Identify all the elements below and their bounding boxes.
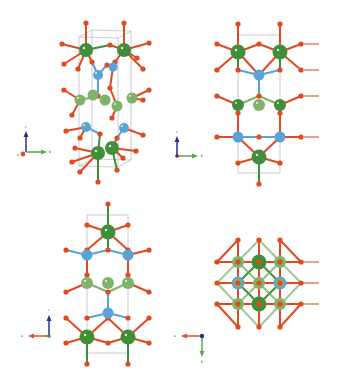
axis-indicator: cba <box>17 125 51 157</box>
panel-view-along-c: ab <box>169 193 338 387</box>
a-axis-arrow-icon <box>28 334 34 339</box>
svg-text:a: a <box>21 334 23 338</box>
axis-indicator: ab <box>174 334 205 365</box>
b-axis-arrow-icon <box>192 154 198 159</box>
crystal-structure-perspective: cba <box>0 0 169 193</box>
axis-indicator: ca <box>21 308 52 339</box>
c-axis-arrow-icon <box>175 136 180 142</box>
a-axis-arrow-icon <box>21 152 26 157</box>
crystal-structure-along-a: cb <box>169 0 338 193</box>
crystal-structure-along-c: ab <box>169 193 338 387</box>
svg-text:a: a <box>17 153 19 157</box>
b-axis-arrow-icon <box>41 150 47 155</box>
truncated-bond-stubs <box>303 43 319 138</box>
svg-text:a: a <box>174 334 176 338</box>
light-cation-atoms <box>75 90 138 112</box>
panel-view-along-b: ca <box>0 193 169 387</box>
crystal-structure-along-b: ca <box>0 193 169 387</box>
svg-text:c: c <box>48 308 50 312</box>
truncated-bond-stubs <box>303 261 319 305</box>
a-axis-arrow-icon <box>181 334 187 339</box>
c-axis-arrow-icon <box>47 315 52 321</box>
svg-text:b: b <box>201 154 203 158</box>
svg-text:b: b <box>49 150 51 154</box>
axis-indicator: cb <box>175 130 204 159</box>
panel-view-along-a: cb <box>169 0 338 193</box>
b-axis-arrow-icon <box>200 351 205 357</box>
svg-text:c: c <box>176 130 178 134</box>
svg-text:c: c <box>25 125 27 129</box>
panel-perspective-view: cba <box>0 0 169 193</box>
svg-text:b: b <box>201 360 203 364</box>
c-axis-arrow-icon <box>24 131 29 137</box>
c-axis-dot-icon <box>200 334 204 338</box>
